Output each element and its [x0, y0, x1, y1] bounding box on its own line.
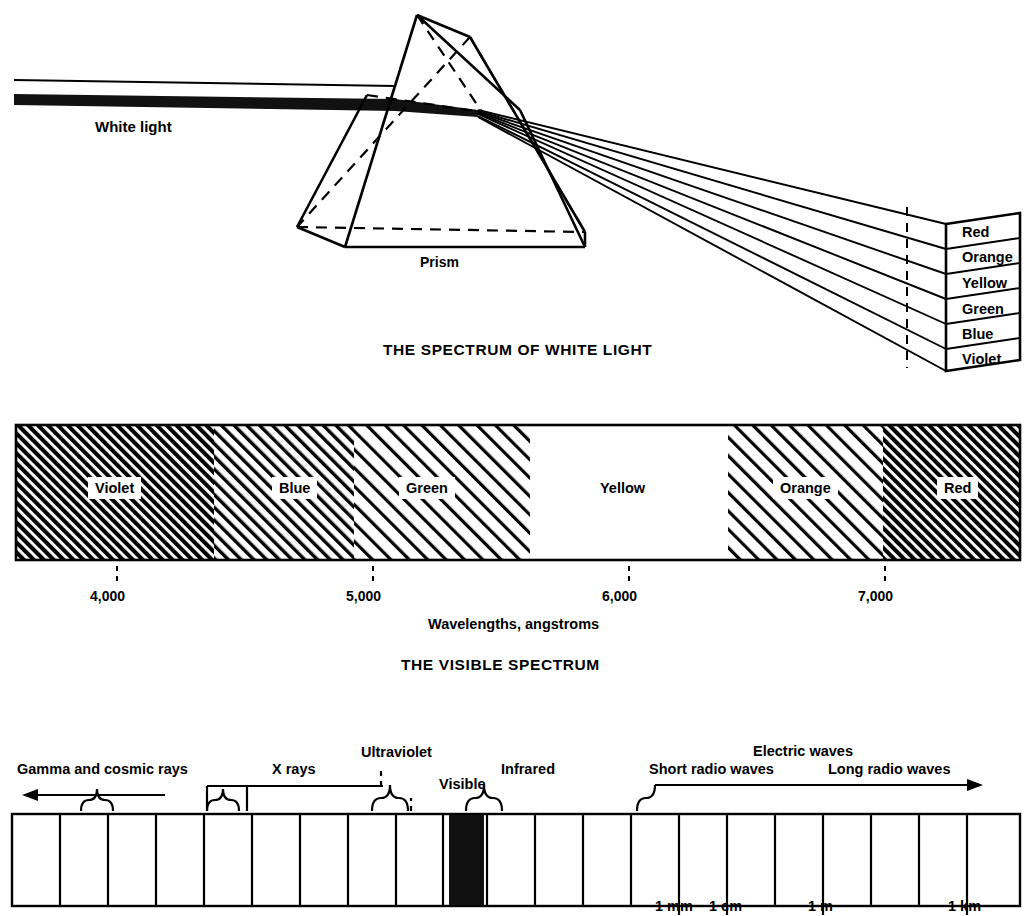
white-light-label: White light	[95, 118, 172, 135]
em-band-frame	[12, 814, 1020, 906]
wavelength-tick-5000: 5,000	[346, 588, 381, 604]
screen-color-orange: Orange	[962, 249, 1013, 265]
visible-band-orange: Orange	[773, 477, 838, 499]
prism-figure-graphic	[0, 0, 1033, 400]
em-region-infrared: Infrared	[501, 761, 555, 777]
visible-band-red: Red	[937, 477, 978, 499]
prism-hidden-edges	[297, 15, 585, 232]
dispersed-rays	[478, 110, 946, 371]
em-region-long-radio: Long radio waves	[828, 761, 950, 777]
wavelength-tick-6000: 6,000	[602, 588, 637, 604]
em-band-divisions	[60, 814, 967, 906]
em-visible-black-band	[449, 815, 484, 905]
em-spectrum-graphic	[0, 726, 1033, 916]
wavelength-ticks	[117, 566, 885, 586]
em-region-visible: Visible	[439, 776, 485, 792]
em-scale-1cm: 1 cm	[709, 898, 742, 914]
em-region-gamma: Gamma and cosmic rays	[17, 761, 188, 777]
visible-band-green: Green	[399, 477, 455, 499]
wavelength-tick-4000: 4,000	[90, 588, 125, 604]
spectrum-diagram-page: White light Prism Red Orange Yellow Gree…	[0, 0, 1033, 916]
em-region-short-radio: Short radio waves	[649, 761, 774, 777]
em-scale-1mm: 1 mm	[655, 898, 693, 914]
em-scale-1km: 1 km	[948, 898, 981, 914]
em-region-xrays: X rays	[272, 761, 316, 777]
screen-color-violet: Violet	[962, 351, 1001, 367]
screen-color-red: Red	[962, 224, 989, 240]
prism-label: Prism	[420, 254, 459, 270]
screen-color-blue: Blue	[962, 326, 993, 342]
visible-band-blue: Blue	[272, 477, 317, 499]
incoming-ray-thin	[14, 80, 395, 86]
visible-band-violet: Violet	[88, 477, 141, 499]
screen-color-green: Green	[962, 301, 1004, 317]
em-group-electric-waves: Electric waves	[753, 743, 853, 759]
prism-figure-title: THE SPECTRUM OF WHITE LIGHT	[383, 341, 652, 359]
wavelength-axis-label: Wavelengths, angstroms	[428, 616, 599, 632]
visible-band-yellow: Yellow	[593, 477, 652, 499]
electric-waves-arrow	[655, 779, 983, 791]
em-region-ultraviolet: Ultraviolet	[361, 744, 432, 760]
visible-spectrum-title: THE VISIBLE SPECTRUM	[401, 656, 600, 674]
screen-color-yellow: Yellow	[962, 275, 1007, 291]
em-scale-1m: 1 m	[808, 898, 833, 914]
white-light-beam	[14, 94, 478, 117]
wavelength-tick-7000: 7,000	[858, 588, 893, 604]
